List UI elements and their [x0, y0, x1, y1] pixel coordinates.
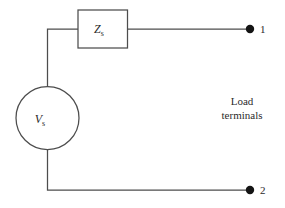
circuit-svg: Vs Zs 1 2 Load terminals	[0, 0, 285, 208]
terminal-1-dot	[246, 25, 254, 33]
terminal-2-dot	[246, 186, 254, 194]
terminal-2-label: 2	[260, 184, 266, 196]
terminal-1-label: 1	[260, 23, 266, 35]
load-terminals-annotation-line2: terminals	[222, 109, 263, 121]
voltage-source-label-sub: s	[42, 119, 45, 128]
wire-source-to-terminal-2	[48, 149, 251, 190]
load-terminals-annotation-line1: Load	[231, 95, 254, 107]
circuit-diagram: Vs Zs 1 2 Load terminals	[0, 0, 285, 208]
impedance-label-sub: s	[101, 29, 104, 38]
voltage-source-symbol	[16, 87, 79, 150]
wire-source-to-impedance	[48, 29, 79, 87]
